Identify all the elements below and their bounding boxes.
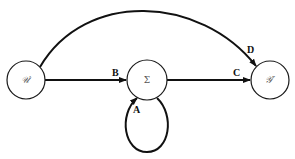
- node-center-label: Σ: [144, 75, 150, 85]
- node-left: 𝒰′: [7, 61, 45, 99]
- node-right: 𝒴″: [251, 61, 289, 99]
- node-center: Σ: [127, 60, 167, 100]
- edge-d: [40, 11, 256, 67]
- edge-c-label: C: [233, 67, 240, 78]
- flow-diagram: D B C A 𝒰′ Σ 𝒴″: [0, 0, 295, 159]
- edge-d-label: D: [247, 44, 254, 55]
- node-right-label: 𝒴″: [265, 75, 276, 85]
- edge-a-label: A: [133, 104, 141, 115]
- node-left-label: 𝒰′: [21, 75, 32, 85]
- edge-a: [126, 98, 168, 152]
- edge-b-label: B: [112, 67, 119, 78]
